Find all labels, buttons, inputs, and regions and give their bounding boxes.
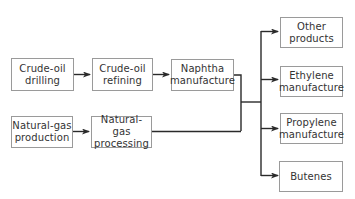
node-label-line1: Natural-gas [12, 120, 71, 132]
node-label-line1: Propylene [279, 117, 344, 129]
node-label-line2: production [12, 132, 71, 144]
node-crude-oil-refining: Crude-oilrefining [92, 58, 153, 91]
node-propylene-manufacture: Propylenemanufacture [280, 113, 343, 144]
node-label-line2: manufacture [279, 82, 344, 94]
node-label-line2: refining [99, 75, 145, 87]
node-natural-gas-production: Natural-gasproduction [11, 116, 73, 148]
node-label-line1: Butenes [290, 171, 332, 183]
node-label-line1: Other [289, 21, 333, 33]
node-label-line1: Ethylene [279, 70, 344, 82]
node-butenes: Butenes [279, 161, 343, 192]
node-label-line2: drilling [19, 75, 65, 87]
node-label-line2: products [289, 33, 333, 45]
node-label-line1: Crude-oil [19, 63, 65, 75]
node-label-line1: Natural-gas [92, 114, 151, 138]
node-crude-oil-drilling: Crude-oildrilling [11, 58, 74, 91]
node-other-products: Otherproducts [280, 17, 343, 48]
node-natural-gas-processing: Natural-gasprocessing [91, 116, 152, 148]
node-label-line2: manufacture [170, 75, 235, 87]
node-label-line1: Naphtha [170, 63, 235, 75]
node-label-line2: manufacture [279, 129, 344, 141]
node-label-line2: processing [92, 138, 151, 150]
node-ethylene-manufacture: Ethylenemanufacture [280, 66, 343, 97]
node-naphtha-manufacture: Naphthamanufacture [171, 59, 234, 91]
node-label-line1: Crude-oil [99, 63, 145, 75]
